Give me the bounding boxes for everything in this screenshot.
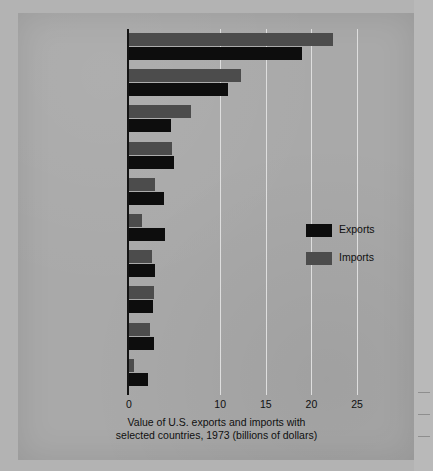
bar-exports-france [129,264,155,277]
bar-chart: CanadaJapanWest GermanyUnited KingdomMex… [0,0,433,471]
x-tick-10: 10 [214,398,226,410]
bar-imports-brazil [129,323,150,336]
bar-imports-netherlands [129,214,142,227]
bar-imports-united-kingdom [129,142,172,155]
chart-legend: ExportsImports [306,222,406,278]
legend-swatch-exports [306,224,332,237]
bar-exports-west-germany [129,119,171,132]
legend-label-imports: Imports [339,251,374,263]
x-tick-0: 0 [126,398,132,410]
bar-exports-canada [129,47,302,60]
page-background: CanadaJapanWest GermanyUnited KingdomMex… [0,0,433,471]
bar-imports-mexico [129,178,155,191]
bar-imports-japan [129,69,241,82]
bar-exports-japan [129,83,228,96]
gridline-25 [357,29,358,395]
bar-imports-france [129,250,152,263]
legend-label-exports: Exports [339,223,375,235]
bar-imports-west-germany [129,105,191,118]
legend-swatch-imports [306,252,332,265]
bar-exports-mexico [129,192,164,205]
x-tick-15: 15 [260,398,272,410]
gridline-20 [311,29,312,395]
bar-exports-brazil [129,337,154,350]
bar-imports-soviet-union [129,359,134,372]
category-labels: CanadaJapanWest GermanyUnited KingdomMex… [0,0,122,471]
caption-line-2: selected countries, 1973 (billions of do… [18,429,415,442]
gridline-15 [266,29,267,395]
legend-item-exports: Exports [306,222,406,241]
bar-exports-netherlands [129,228,165,241]
x-tick-25: 25 [351,398,363,410]
bar-exports-united-kingdom [129,156,174,169]
x-tick-20: 20 [306,398,318,410]
bar-imports-canada [129,33,333,46]
bar-exports-soviet-union [129,373,148,386]
legend-item-imports: Imports [306,250,406,269]
bar-imports-italy [129,286,154,299]
caption-line-1: Value of U.S. exports and imports with [18,416,415,429]
chart-caption: Value of U.S. exports and imports with s… [0,416,433,442]
bar-exports-italy [129,300,153,313]
